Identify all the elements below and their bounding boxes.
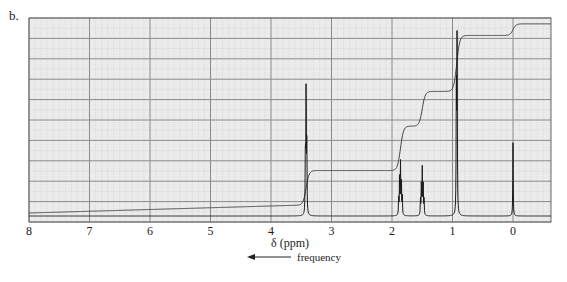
x-tick-label: 7 [87, 224, 93, 239]
frequency-indicator: frequency [247, 251, 341, 263]
frequency-label: frequency [297, 251, 341, 263]
left-arrow-icon [247, 253, 291, 261]
x-tick-label: 0 [510, 224, 516, 239]
x-tick-label: 6 [147, 224, 153, 239]
x-tick-label: 1 [450, 224, 456, 239]
nmr-figure: b. 876543210 δ (ppm) frequency [0, 0, 567, 282]
x-tick-label: 3 [329, 224, 335, 239]
x-tick-label: 8 [26, 224, 32, 239]
x-axis-label: δ (ppm) [271, 236, 309, 251]
x-tick-label: 2 [389, 224, 395, 239]
x-tick-label: 5 [208, 224, 214, 239]
